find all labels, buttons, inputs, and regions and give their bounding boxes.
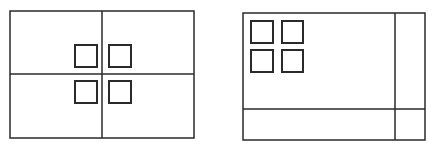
left-diagram	[10, 11, 194, 138]
left-square-bottom-left	[75, 81, 97, 103]
left-square-top-right	[109, 45, 131, 67]
right-square-top-right	[282, 21, 303, 43]
right-square-bottom-left	[251, 50, 273, 72]
right-square-top-left	[251, 21, 273, 43]
right-diagram	[243, 13, 425, 140]
left-square-bottom-right	[109, 81, 131, 103]
right-outer-frame	[243, 13, 425, 140]
left-square-top-left	[75, 45, 97, 67]
diagram-canvas	[0, 0, 436, 151]
right-square-bottom-right	[282, 50, 303, 72]
